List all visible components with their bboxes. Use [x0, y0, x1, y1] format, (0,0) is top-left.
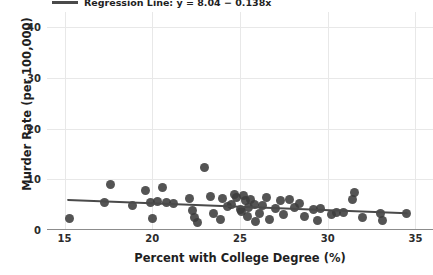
legend: Regression Line: y = 8.04 − 0.138x [52, 0, 271, 8]
x-tick-30: 30 [321, 233, 335, 244]
plot-area [47, 12, 433, 230]
x-axis-tick-labels: 1520253035 [47, 233, 433, 247]
scatter-chart: 010203040 1520253035 Percent with Colleg… [0, 0, 433, 275]
x-axis-line [47, 229, 433, 231]
regression-line [47, 12, 433, 230]
legend-label: Regression Line: y = 8.04 − 0.138x [84, 0, 271, 8]
legend-line-swatch [52, 1, 78, 4]
x-tick-15: 15 [58, 233, 72, 244]
x-tick-35: 35 [408, 233, 422, 244]
x-axis-title: Percent with College Degree (%) [47, 251, 433, 265]
y-axis-title: Murder Rate (per 100,000) [20, 4, 34, 204]
x-tick-20: 20 [145, 233, 159, 244]
x-tick-25: 25 [233, 233, 247, 244]
y-tick-0: 0 [34, 225, 41, 236]
